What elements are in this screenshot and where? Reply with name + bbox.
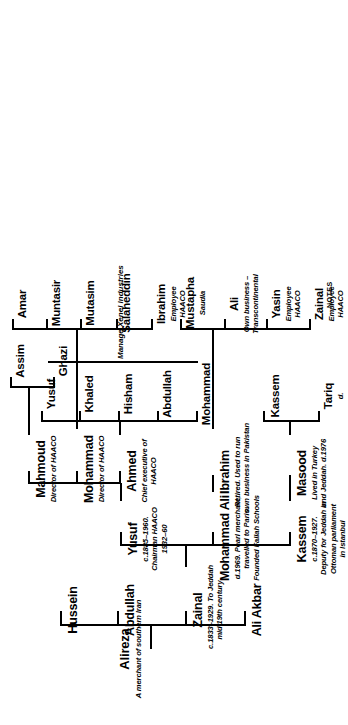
- person-node-mahmoud: Mahmoud Director of HAACO: [34, 429, 58, 509]
- person-desc: Chief executive of HAACO: [140, 437, 159, 505]
- person-name: Assim: [14, 331, 27, 391]
- person-name: Amar: [16, 273, 29, 335]
- person-node-muntasir: Muntasir: [50, 267, 63, 339]
- person-node-ibrahim-g6: Ibrahim Employee HAACO: [155, 273, 188, 335]
- person-desc: d.: [336, 367, 345, 425]
- connector-to-salaheddin: [116, 319, 118, 330]
- person-name: Tariq: [322, 367, 335, 425]
- connector-to-abdullah-g5: [157, 411, 159, 422]
- person-node-yusuf-g5: Yusuf: [45, 359, 58, 429]
- person-node-khaled: Khaled: [83, 359, 96, 429]
- connector-to-ahmed: [119, 471, 121, 484]
- person-node-hussein: Hussein: [66, 575, 80, 645]
- connector-to-ibrahim-g6: [151, 319, 153, 330]
- connector-to-mohammad-g5: [196, 411, 198, 422]
- person-name: Kassem: [269, 367, 282, 425]
- person-name: Mohammad: [82, 427, 96, 511]
- person-node-kassem-g5: Kassem: [269, 367, 282, 425]
- connector-to-ali-akbar: [244, 611, 246, 626]
- person-name: Abdullah: [161, 359, 174, 429]
- person-name: Masood: [295, 437, 309, 509]
- person-node-abdullah-g5: Abdullah: [161, 359, 174, 429]
- person-name: Mohammad: [200, 359, 213, 429]
- person-name: Kassem: [295, 503, 309, 575]
- person-desc: Lived in Turkey and Jeddah. d.1976: [310, 437, 329, 509]
- person-desc: Retired. Used to run own business in Pak…: [233, 431, 252, 513]
- person-name: Hisham: [122, 359, 135, 429]
- person-name: Yasin: [270, 273, 283, 335]
- connector-alireza-stem: [150, 625, 152, 649]
- person-desc: c.1885–1960. Chairman HAACO 1932–60: [141, 503, 169, 575]
- person-desc: Employee HAACO: [169, 273, 188, 335]
- connector-yusuf-stem: [120, 483, 122, 501]
- person-desc: Saudia: [198, 267, 207, 339]
- connector-to-kassem-g5: [263, 411, 265, 422]
- person-node-assim: Assim: [14, 331, 27, 391]
- person-node-mohammad-g5: Mohammad: [200, 359, 213, 429]
- person-desc: Own business – Transcontinental: [242, 265, 261, 343]
- person-node-hisham: Hisham: [122, 359, 135, 429]
- person-node-mohammad-g4: Mohammad Director of HAACO: [82, 427, 106, 511]
- connector-mahmoud-stem: [28, 421, 30, 435]
- connector-to-mohammad-ali: [212, 532, 214, 546]
- person-name: Hussein: [66, 575, 80, 645]
- person-name: Yusuf: [45, 359, 58, 429]
- person-desc: c.1870–1927. Deputy for Jeddah in Ottoma…: [310, 503, 348, 575]
- connector-to-yasin: [266, 319, 268, 330]
- connector-to-amar: [12, 319, 14, 330]
- person-desc: Director of HAACO: [49, 429, 58, 509]
- connector-zainal-stem: [185, 545, 187, 567]
- connector-masood-stem: [289, 421, 291, 435]
- connector-to-yusuf: [120, 532, 122, 546]
- person-name: Mahmoud: [34, 429, 48, 509]
- person-node-ahmed: Ahmed Chief executive of HAACO: [125, 437, 159, 505]
- person-node-mutasim: Mutasim: [84, 267, 97, 339]
- person-name: Muntasir: [50, 267, 63, 339]
- person-node-amar: Amar: [16, 273, 29, 335]
- person-name: Mutasim: [84, 267, 97, 339]
- person-name: Ahmed: [125, 437, 139, 505]
- person-name: Salaheddin: [120, 265, 133, 341]
- person-node-kassem-g3: Kassem c.1870–1927. Deputy for Jeddah in…: [295, 503, 348, 575]
- connector-to-abdullah: [117, 611, 119, 626]
- person-desc: Employee HAACO: [284, 273, 303, 335]
- connector-ahmed-stem: [119, 421, 121, 435]
- person-name: Zainal: [191, 571, 205, 649]
- person-name: Abdullah: [123, 575, 137, 645]
- connector-to-hussein: [60, 611, 62, 626]
- connector-kassem-to-masood: [289, 475, 291, 501]
- connector-to-assim: [10, 377, 12, 388]
- connector-to-khaled: [79, 411, 81, 422]
- connector-to-hisham: [118, 411, 120, 422]
- connector-to-kassem: [289, 532, 291, 546]
- connector-to-zainal: [185, 611, 187, 626]
- person-name: Khaled: [83, 359, 96, 429]
- connector-mohammad-g4-stem: [76, 329, 78, 429]
- person-name: Ibrahim: [155, 273, 168, 335]
- person-name: Zainal: [313, 273, 326, 335]
- person-node-yusuf-g3: Yusuf c.1885–1960. Chairman HAACO 1932–6…: [126, 503, 169, 575]
- connector-to-mohammad-g4: [76, 471, 78, 484]
- connector-mahmoud-cross: [28, 388, 30, 422]
- connector-to-yusuf-g5: [41, 411, 43, 422]
- person-name: Ibrahim: [218, 431, 232, 513]
- person-node-abdullah-g2: Abdullah: [123, 575, 137, 645]
- person-node-yasin: Yasin Employee HAACO: [270, 273, 303, 335]
- person-node-masood: Masood Lived in Turkey and Jeddah. d.197…: [295, 437, 329, 509]
- person-desc: Director of HAACO: [97, 427, 106, 511]
- person-node-ibrahim-g4: Ibrahim Retired. Used to run own busines…: [218, 431, 252, 513]
- person-name: Yusuf: [126, 503, 140, 575]
- person-node-ali-g6: Ali Own business – Transcontinental: [228, 265, 261, 343]
- person-node-tariq: Tariq d.: [322, 367, 345, 425]
- person-name: Ali Akbar: [250, 575, 264, 645]
- person-node-salaheddin: Salaheddin: [120, 265, 133, 341]
- person-node-ali-akbar: Ali Akbar: [250, 575, 264, 645]
- person-name: Ali: [228, 265, 241, 343]
- connector-to-ali-g6: [224, 319, 226, 330]
- connector-to-mahmoud: [28, 471, 30, 484]
- connector-to-mutasim: [80, 319, 82, 330]
- connector-mohammadali-to-ibrahim: [212, 475, 214, 492]
- connector-to-zainal-g6: [309, 319, 311, 330]
